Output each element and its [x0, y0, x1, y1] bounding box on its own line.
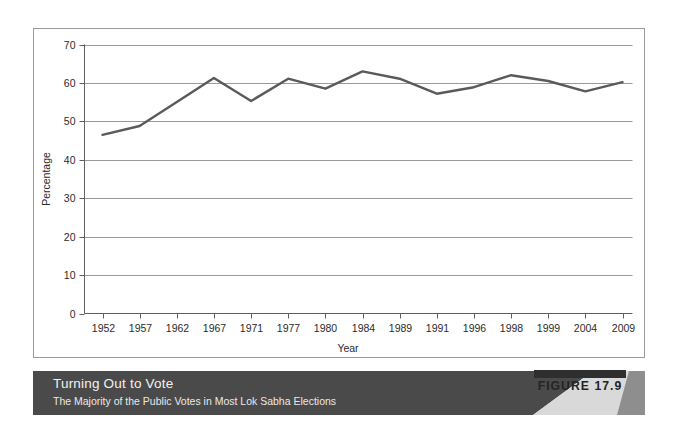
chart-frame — [33, 28, 645, 358]
figure-badge-bar — [534, 370, 626, 378]
caption-text-block: Turning Out to Vote The Majority of the … — [53, 375, 483, 409]
figure-container: 010203040506070 195219571962196719711977… — [0, 0, 675, 432]
figure-number-label: FIGURE 17.9 — [527, 378, 632, 393]
figure-number-badge: FIGURE 17.9 — [524, 370, 636, 398]
figure-subtitle: The Majority of the Public Votes in Most… — [53, 394, 483, 409]
figure-title: Turning Out to Vote — [53, 375, 483, 392]
